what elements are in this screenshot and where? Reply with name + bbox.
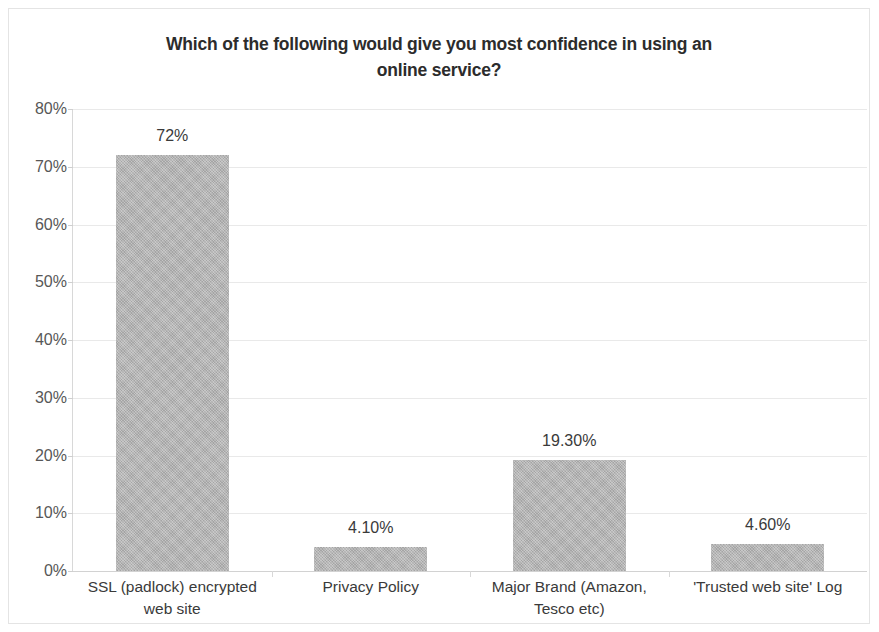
x-axis-category-label-line: 'Trusted web site' Log	[672, 576, 865, 598]
y-axis-tick-label: 20%	[15, 447, 67, 465]
x-axis-category-label: Major Brand (Amazon,Tesco etc)	[473, 576, 666, 620]
y-axis-tick-label: 0%	[15, 562, 67, 580]
y-axis-tick-labels: 80%70%60%50%40%30%20%10%0%	[9, 109, 67, 571]
x-axis-category-label-line: Major Brand (Amazon,	[473, 576, 666, 598]
y-axis-tick	[68, 340, 73, 341]
bar-value-label: 72%	[156, 127, 188, 145]
chart-title: Which of the following would give you mo…	[79, 31, 799, 83]
x-axis-category-labels: SSL (padlock) encryptedweb sitePrivacy P…	[73, 576, 867, 632]
bar	[711, 544, 824, 571]
bar	[513, 460, 626, 571]
chart-container: Which of the following would give you mo…	[8, 8, 870, 624]
y-axis-tick	[68, 456, 73, 457]
x-axis-tick	[470, 571, 471, 577]
x-axis-tick	[669, 571, 670, 577]
y-axis-tick-label: 50%	[15, 273, 67, 291]
y-axis-tick	[68, 513, 73, 514]
x-axis-category-label-line: web site	[76, 598, 269, 620]
x-axis-category-label: 'Trusted web site' Log	[672, 576, 865, 598]
x-axis-category-label: Privacy Policy	[275, 576, 468, 598]
y-axis-tick	[68, 282, 73, 283]
bar	[116, 155, 229, 571]
x-axis-tick	[272, 571, 273, 577]
x-axis-category-label-line: Privacy Policy	[275, 576, 468, 598]
gridline	[73, 109, 867, 110]
x-axis-category-label-line: Tesco etc)	[473, 598, 666, 620]
bar	[314, 547, 427, 571]
y-axis-tick-label: 30%	[15, 389, 67, 407]
bar-value-label: 4.60%	[745, 516, 790, 534]
y-axis-tick	[68, 398, 73, 399]
chart-title-line-1: Which of the following would give you mo…	[79, 31, 799, 57]
bar-value-label: 19.30%	[542, 432, 596, 450]
y-axis-tick-label: 60%	[15, 216, 67, 234]
bar-value-label: 4.10%	[348, 519, 393, 537]
y-axis-tick-label: 40%	[15, 331, 67, 349]
y-axis-tick	[68, 109, 73, 110]
plot-area: 72%4.10%19.30%4.60%	[73, 109, 867, 571]
y-axis-tick-label: 10%	[15, 504, 67, 522]
y-axis-tick-label: 70%	[15, 158, 67, 176]
x-axis-category-label: SSL (padlock) encryptedweb site	[76, 576, 269, 620]
y-axis-tick	[68, 571, 73, 572]
y-axis-tick-label: 80%	[15, 100, 67, 118]
chart-title-line-2: online service?	[79, 57, 799, 83]
y-axis-tick	[68, 225, 73, 226]
x-axis-category-label-line: SSL (padlock) encrypted	[76, 576, 269, 598]
y-axis-tick	[68, 167, 73, 168]
